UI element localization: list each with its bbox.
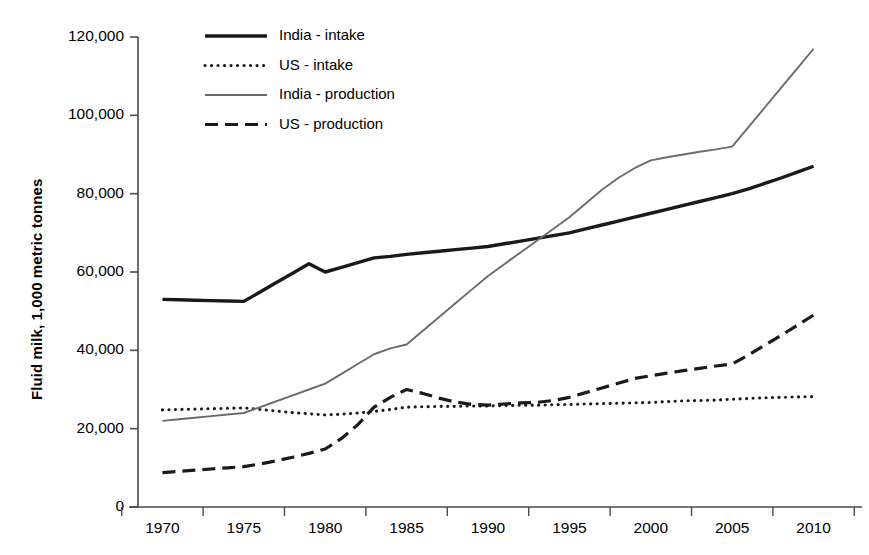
- series-line-3: [162, 315, 813, 472]
- series-line-0: [162, 166, 813, 301]
- chart-container: Fluid milk, 1,000 metric tonnes 020,0004…: [0, 0, 869, 555]
- plot-area: [0, 0, 869, 555]
